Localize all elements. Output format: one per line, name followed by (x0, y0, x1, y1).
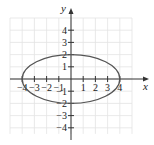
x-tick-label: 3 (105, 82, 110, 93)
x-axis-label: x (142, 80, 148, 92)
y-tick-label: 3 (62, 37, 67, 48)
y-tick-label: −4 (56, 122, 67, 133)
x-tick-label: 2 (93, 82, 98, 93)
x-tick-label: 1 (81, 82, 86, 93)
axes (10, 8, 149, 140)
y-axis-label: y (60, 2, 66, 14)
y-tick-label: −3 (56, 110, 67, 121)
x-tick-label: −2 (41, 82, 52, 93)
y-tick-label: −1 (56, 86, 67, 97)
x-tick-label: −3 (29, 82, 40, 93)
y-axis-arrow-icon (69, 8, 74, 14)
x-tick-label: −4 (17, 82, 28, 93)
y-tick-label: 1 (62, 61, 67, 72)
ellipse-graph: −4−3−2−11234−4−3−2−11234 x y (0, 0, 154, 145)
x-tick-label: 4 (117, 82, 122, 93)
y-tick-label: 4 (62, 25, 67, 36)
